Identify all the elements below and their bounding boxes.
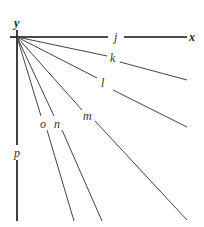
x-axis-label: x: [188, 30, 195, 44]
ray-label-l: l: [101, 76, 105, 90]
ray-label-m: m: [83, 109, 92, 123]
ray-label-j: j: [112, 30, 118, 44]
ray-label-n: n: [54, 117, 60, 131]
ray-l: [17, 37, 97, 78]
ray-k: [17, 37, 107, 56]
ray-label-o: o: [40, 117, 46, 131]
ray-m: [17, 37, 82, 110]
ray-label-k: k: [110, 51, 116, 65]
ray-k: [120, 62, 187, 80]
ray-n: [17, 37, 54, 116]
ray-diagram: y x j k l m n o p: [0, 0, 204, 227]
ray-label-p: p: [13, 146, 20, 160]
ray-n: [62, 130, 102, 221]
ray-m: [95, 121, 187, 220]
ray-l: [113, 90, 187, 127]
y-axis-label: y: [12, 16, 20, 30]
ray-o: [47, 130, 74, 221]
ray-o: [17, 37, 41, 116]
